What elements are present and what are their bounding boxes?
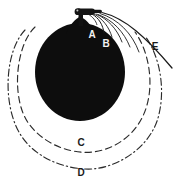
label-a: A [88, 29, 95, 40]
nozzle-connector-tick [88, 14, 97, 25]
diagram-figure: A B C D E [0, 0, 181, 182]
label-e: E [152, 41, 159, 52]
filled-dark-disk [35, 17, 125, 121]
label-b: B [102, 38, 109, 49]
label-c: C [77, 137, 84, 148]
label-d: D [77, 167, 84, 178]
diagram-canvas: A B C D E [0, 0, 181, 182]
neck-stem [79, 14, 84, 26]
